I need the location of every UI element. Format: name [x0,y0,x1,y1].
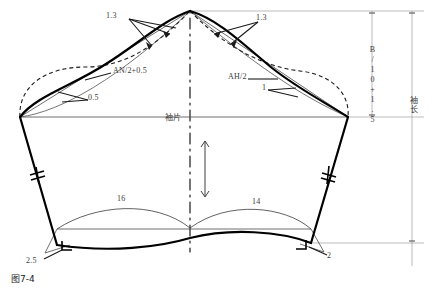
label-back-armhole: AH/2 [228,73,247,81]
hem-arc-left [57,209,190,229]
label-sleeve-length: 袖长 [408,96,416,114]
construction-lines [20,11,348,253]
label-hem-left-drop: 2.5 [26,257,37,265]
label-left-offset: 0.5 [88,94,99,102]
label-hem-right: 14 [252,198,260,206]
label-front-armhole: AN/2+0.5 [113,67,147,75]
hem-curve [57,232,311,249]
right-cap-chord [190,11,348,117]
figure-caption: 图7-4 [11,272,35,285]
label-cap-right-ease: 1.3 [256,14,267,22]
label-hem-right-drop: 2 [327,252,331,260]
label-cap-height: B/10+1.5 [368,45,376,125]
grainline-arrow [201,141,209,197]
hem-guide-arcs [57,209,311,229]
leader-hem-left-drop [44,250,62,259]
label-cap-left-ease: 1.3 [106,12,117,20]
notch-right-a [322,173,336,177]
sleeve-outline [20,11,348,249]
label-hem-left: 16 [117,195,125,203]
hem-arc-right [190,209,311,229]
leader-right-offset-a [268,90,298,97]
notch-marks [30,166,336,184]
leader-lines [44,19,327,259]
arrowhead-cap-right-a [214,31,221,38]
dimension-lines [190,11,424,266]
leader-right-offset-b [268,88,296,90]
leader-left-offset-b [62,100,88,102]
sleeve-pattern-figure: 1.3 1.3 AN/2+0.5 AH/2 0.5 1 B/10+1.5 袖长 … [0,0,434,296]
leader-hem-right-drop [309,247,327,255]
label-sleeve-piece: 袖片 [165,114,181,122]
label-right-offset: 1 [262,84,266,92]
